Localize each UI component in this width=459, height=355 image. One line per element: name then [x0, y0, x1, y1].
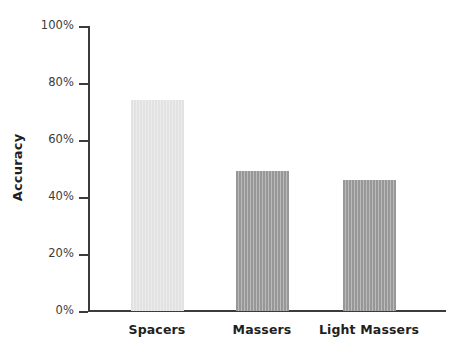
y-axis-tick-label: 80%: [4, 75, 74, 89]
y-axis-tick-mark: [79, 254, 88, 256]
y-axis-tick-label: 0%: [4, 303, 74, 317]
x-axis-label-light-massers: Light Massers: [289, 322, 449, 337]
bar-light-massers: [343, 180, 396, 311]
y-axis-tick-mark: [79, 197, 88, 199]
y-axis-tick-label: 60%: [4, 132, 74, 146]
bar-spacers: [131, 100, 184, 311]
y-axis-tick-label: 100%: [4, 18, 74, 32]
y-axis-tick-mark: [79, 26, 88, 28]
y-axis-tick-mark: [79, 311, 88, 313]
plot-area: [88, 26, 448, 311]
y-axis-tick-label: 20%: [4, 246, 74, 260]
y-axis-tick-label: 40%: [4, 189, 74, 203]
bar-chart: Accuracy 0%20%40%60%80%100% SpacersMasse…: [0, 0, 459, 355]
bar-texture: [131, 100, 184, 311]
y-axis-title: Accuracy: [0, 0, 34, 355]
y-axis-tick-mark: [79, 140, 88, 142]
y-axis-tick-mark: [79, 83, 88, 85]
bar-texture: [236, 171, 289, 311]
bar-texture: [343, 180, 396, 311]
bar-massers: [236, 171, 289, 311]
